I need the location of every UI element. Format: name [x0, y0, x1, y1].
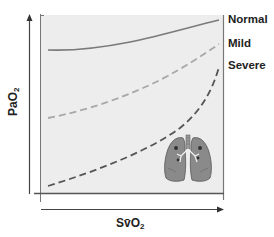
oxygenation-diagram: Normal Mild Severe PaO2 Sv̄O2 [0, 0, 274, 237]
legend-label-mild: Mild [228, 37, 251, 49]
legend-label-normal: Normal [228, 13, 268, 25]
x-axis-label: Sv̄O2 [116, 216, 144, 231]
y-axis-label-sub: 2 [12, 88, 21, 92]
x-axis-arrow [41, 207, 224, 213]
x-axis-label-main: Sv̄O [116, 216, 140, 230]
legend-label-severe: Severe [228, 59, 266, 71]
x-axis-label-sub: 2 [140, 222, 144, 231]
y-axis-label-main: PaO [6, 92, 20, 116]
y-axis-label: PaO2 [6, 88, 21, 116]
y-axis-arrow [27, 14, 33, 194]
